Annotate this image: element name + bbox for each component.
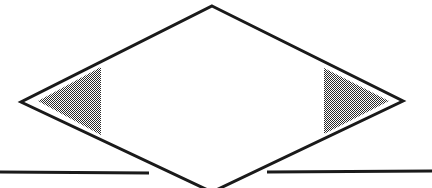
horizontal-line-left-segment bbox=[0, 172, 149, 173]
figure-svg bbox=[0, 0, 432, 188]
figure-canvas bbox=[0, 0, 432, 188]
horizontal-line-right-segment bbox=[267, 171, 432, 172]
